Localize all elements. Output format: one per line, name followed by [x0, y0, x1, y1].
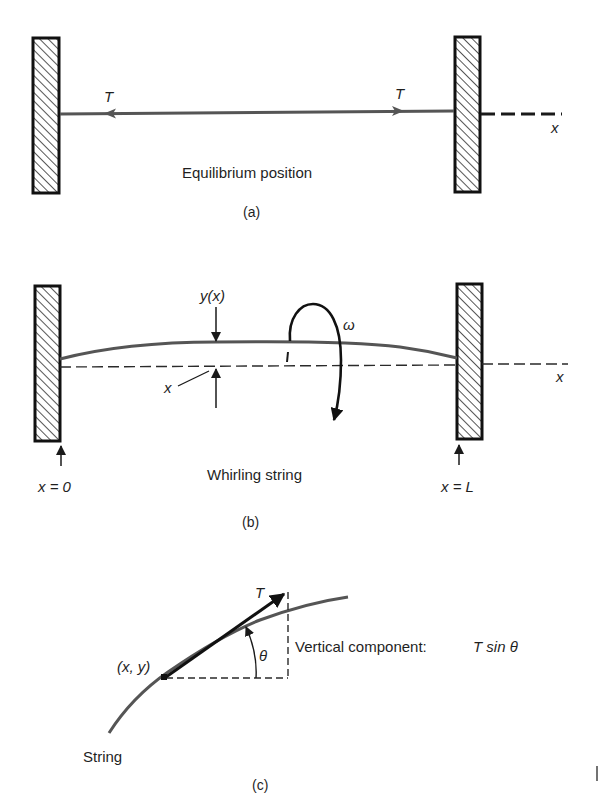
string-label: String — [83, 748, 122, 765]
vertical-component-label: Vertical component: — [295, 638, 427, 655]
angle-label: θ — [259, 647, 267, 664]
panel-c-caption: (c) — [252, 777, 268, 793]
angle-arc — [246, 627, 256, 678]
right-fixed-wall — [457, 284, 482, 439]
left-fixed-wall — [33, 38, 59, 193]
tension-label: T — [255, 584, 266, 601]
tension-vector — [166, 594, 284, 677]
point-marker — [161, 674, 167, 680]
right-fixed-wall — [455, 37, 480, 192]
position-leader-line — [178, 371, 209, 386]
left-end-label: x = 0 — [37, 478, 72, 495]
panel-b-caption: (b) — [242, 514, 259, 530]
position-label: x — [163, 379, 172, 396]
panel-a-title: Equilibrium position — [182, 164, 312, 181]
tension-right-label: T — [395, 85, 406, 102]
panel-b: y(x) x ω x Whirling string x = 0 x = L (… — [35, 284, 568, 530]
tick-mark — [287, 352, 288, 362]
vertical-component-formula: T sin θ — [473, 638, 518, 655]
x-axis-label-b: x — [555, 368, 564, 385]
panel-b-title: Whirling string — [207, 466, 302, 483]
tension-left-label: T — [104, 88, 115, 105]
right-end-label: x = L — [440, 478, 474, 495]
left-fixed-wall — [35, 286, 60, 441]
panel-c: T θ (x, y) Vertical component: T sin θ S… — [83, 584, 518, 793]
rotation-arrow — [290, 304, 341, 420]
x-axis-label-a: x — [550, 119, 559, 136]
panel-a-caption: (a) — [243, 204, 260, 220]
angular-velocity-label: ω — [343, 316, 355, 333]
whirling-string-figure: T T x Equilibrium position (a) y(x) x ω … — [0, 0, 598, 800]
whirling-string-curve — [60, 342, 457, 359]
equilibrium-axis — [60, 365, 457, 367]
displacement-label: y(x) — [199, 287, 225, 304]
point-label: (x, y) — [117, 658, 150, 675]
panel-a: T T x Equilibrium position (a) — [33, 37, 562, 220]
